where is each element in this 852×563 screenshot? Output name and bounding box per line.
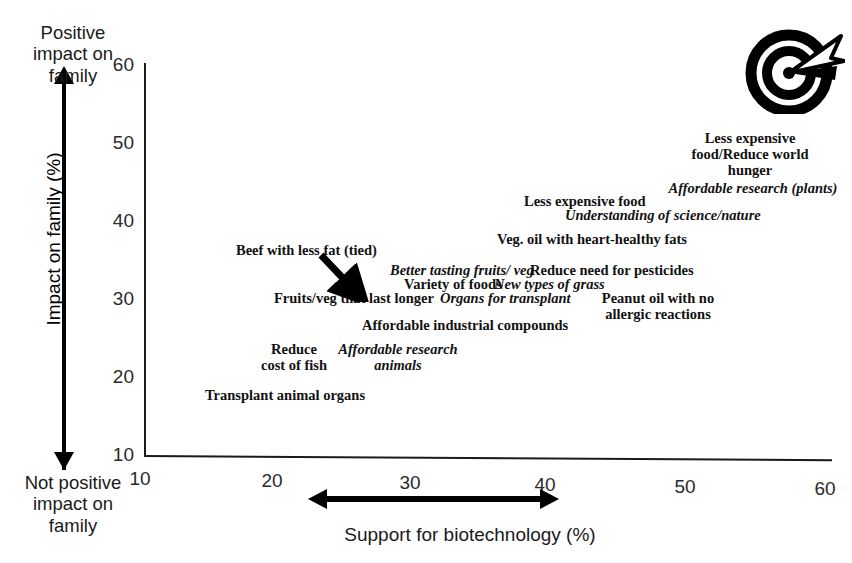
chart-canvas: 60 50 40 30 20 10 10 20 30 40 50 60 Posi… (0, 0, 852, 563)
data-label-affordable-research-animals: Affordable research animals (334, 341, 462, 373)
x-arrow-shaft (325, 496, 543, 502)
x-axis-title: Support for biotechnology (%) (340, 524, 600, 546)
y-arrow-head-down (54, 452, 74, 470)
y-tick-50: 50 (100, 132, 134, 154)
data-label-veg-oil-heart-healthy-fats: Veg. oil with heart-healthy fats (497, 231, 687, 247)
callout-arrow-icon (318, 252, 370, 302)
y-axis-top-caption: Positive impact on family (12, 22, 134, 86)
x-tick-50: 50 (665, 476, 705, 498)
data-label-understanding-of-science-nature: Understanding of science/nature (565, 207, 761, 223)
y-tick-10: 10 (100, 444, 134, 466)
y-axis-title: Impact on family (%) (43, 129, 65, 349)
x-axis-line (144, 455, 832, 461)
y-tick-30: 30 (100, 288, 134, 310)
y-axis-line (144, 63, 146, 457)
x-tick-30: 30 (390, 472, 430, 494)
y-tick-20: 20 (100, 366, 134, 388)
data-label-affordable-research-plants: Affordable research (plants) (655, 180, 851, 196)
x-tick-60: 60 (805, 478, 845, 500)
x-tick-20: 20 (252, 470, 292, 492)
data-label-peanut-oil-no-allergic-reactions: Peanut oil with no allergic reactions (578, 290, 738, 322)
x-arrow-head-right (540, 489, 559, 509)
data-label-affordable-industrial-compounds: Affordable industrial compounds (362, 317, 568, 333)
bullseye-dart-icon (745, 28, 845, 114)
data-label-organs-for-transplant: Organs for transplant (440, 290, 571, 306)
data-label-transplant-animal-organs: Transplant animal organs (205, 387, 365, 403)
y-tick-40: 40 (100, 210, 134, 232)
y-axis-bottom-caption: Not positive impact on family (6, 472, 140, 536)
data-label-less-expensive-food-reduce-world-hunger: Less expensive food/Reduce world hunger (655, 130, 845, 179)
data-label-reduce-cost-of-fish: Reduce cost of fish (248, 341, 340, 373)
